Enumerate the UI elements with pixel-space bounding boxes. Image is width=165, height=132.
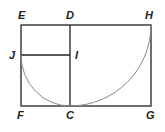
label-h: H bbox=[145, 10, 153, 21]
label-i: I bbox=[75, 50, 78, 61]
rectangle-efgh bbox=[21, 25, 151, 106]
label-g: G bbox=[146, 110, 155, 121]
label-e: E bbox=[18, 10, 25, 21]
label-d: D bbox=[66, 10, 74, 21]
label-c: C bbox=[66, 110, 74, 121]
label-f: F bbox=[17, 110, 24, 121]
label-j: J bbox=[9, 50, 15, 61]
curve-j-c-h bbox=[21, 25, 151, 106]
